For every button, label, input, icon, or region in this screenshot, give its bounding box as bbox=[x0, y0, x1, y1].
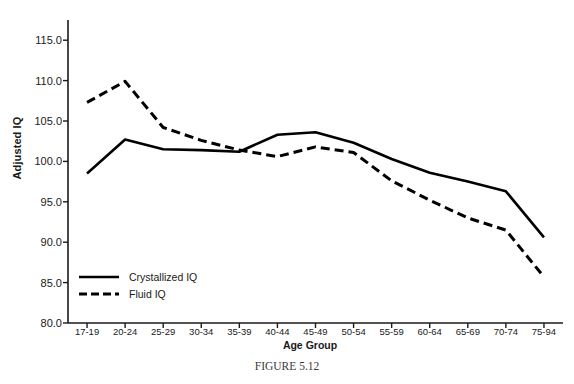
legend-label-fluid: Fluid IQ bbox=[129, 288, 166, 300]
chart-legend: Crystallized IQ Fluid IQ bbox=[78, 268, 248, 302]
x-tick-label: 40-44 bbox=[265, 327, 289, 337]
x-tick-label: 55-59 bbox=[379, 327, 403, 337]
figure-caption-text: FIGURE 5.12 bbox=[255, 360, 320, 372]
x-tick-label: 65-69 bbox=[456, 327, 480, 337]
y-axis-title: Adjusted IQ bbox=[11, 98, 23, 198]
y-tick-label: 90.0 bbox=[16, 237, 62, 248]
figure-caption: FIGURE 5.12 bbox=[0, 360, 574, 372]
y-tick-label: 115.0 bbox=[16, 35, 62, 46]
line-chart: 80.085.090.095.0100.0105.0110.0115.0 17-… bbox=[0, 0, 574, 350]
x-tick-label: 20-24 bbox=[113, 327, 137, 337]
y-tick-label: 80.0 bbox=[16, 318, 62, 329]
legend-label-crystallized: Crystallized IQ bbox=[129, 271, 197, 283]
x-tick-label: 30-34 bbox=[189, 327, 213, 337]
x-tick-label: 25-29 bbox=[151, 327, 175, 337]
legend-item-fluid: Fluid IQ bbox=[78, 285, 248, 302]
x-tick-label: 17-19 bbox=[75, 327, 99, 337]
figure-container: 80.085.090.095.0100.0105.0110.0115.0 17-… bbox=[0, 0, 574, 384]
legend-swatch-solid-line-icon bbox=[78, 271, 120, 283]
x-tick-label: 45-49 bbox=[303, 327, 327, 337]
x-tick-label: 70-74 bbox=[494, 327, 518, 337]
x-tick-label: 75-94 bbox=[532, 327, 556, 337]
x-axis-title: Age Group bbox=[0, 339, 574, 351]
x-tick-label: 50-54 bbox=[341, 327, 365, 337]
legend-item-crystallized: Crystallized IQ bbox=[78, 268, 248, 285]
x-tick-label: 35-39 bbox=[227, 327, 251, 337]
legend-swatch-dashed-line-icon bbox=[78, 288, 120, 300]
y-tick-label: 85.0 bbox=[16, 277, 62, 288]
data-series-group bbox=[87, 81, 544, 277]
series-line-fluid-iq bbox=[87, 81, 544, 277]
x-tick-label: 60-64 bbox=[418, 327, 442, 337]
y-tick-label: 110.0 bbox=[16, 75, 62, 86]
